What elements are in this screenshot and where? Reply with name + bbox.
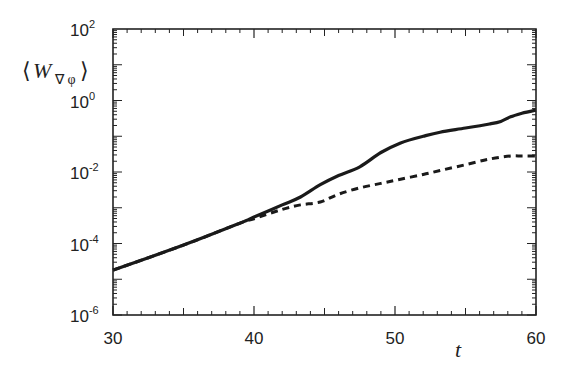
x-tick-label: 30 <box>104 329 123 348</box>
y-tick-label: 10-4 <box>70 233 99 255</box>
y-tick-label: 102 <box>70 18 95 40</box>
x-tick-label: 40 <box>245 329 264 348</box>
series-dashed-line <box>113 156 536 270</box>
x-tick-label: 60 <box>527 329 546 348</box>
plot-frame <box>113 29 536 315</box>
svg-text:⟨: ⟨ <box>22 58 31 83</box>
x-tick-label: 50 <box>386 329 405 348</box>
series-layer <box>113 110 536 270</box>
chart: 30405060 10-610-410-2100102 t ⟨ W ∇ φ ⟩ <box>0 0 574 377</box>
y-axis-title-main: W <box>33 58 53 83</box>
minor-ticks <box>113 29 536 315</box>
svg-text:⟩: ⟩ <box>80 58 89 83</box>
x-axis-title: t <box>455 337 462 362</box>
y-axis-title: ⟨ W ∇ φ ⟩ <box>22 58 89 87</box>
y-tick-label: 10-6 <box>70 304 99 326</box>
y-tick-label: 10-2 <box>70 161 99 183</box>
y-axis-title-sub: ∇ φ <box>54 72 76 87</box>
x-tick-labels: 30405060 <box>104 329 546 348</box>
y-tick-label: 100 <box>70 90 95 112</box>
series-solid-line <box>113 110 536 270</box>
